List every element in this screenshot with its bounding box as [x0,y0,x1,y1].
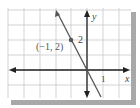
y-axis-label: y [91,11,97,22]
point-marker [69,38,73,42]
shadow-bottom [11,100,136,105]
coordinate-plane: (−1, 2) 2 1 y x [0,0,140,108]
graph-figure: (−1, 2) 2 1 y x [0,0,140,108]
grid-background [6,7,131,100]
point-label: (−1, 2) [36,41,63,53]
x-tick-label: 1 [101,74,106,84]
y-tick-label: 2 [78,34,83,45]
x-axis-label: x [124,73,130,84]
shadow-right [131,12,136,105]
